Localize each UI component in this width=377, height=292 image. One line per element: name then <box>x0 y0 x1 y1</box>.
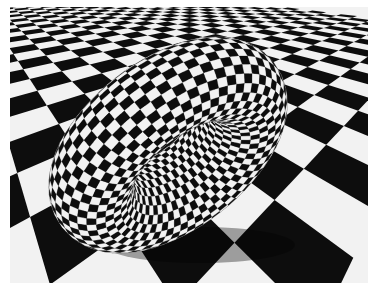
rendered-image <box>10 7 368 283</box>
torus-scene <box>10 7 368 283</box>
